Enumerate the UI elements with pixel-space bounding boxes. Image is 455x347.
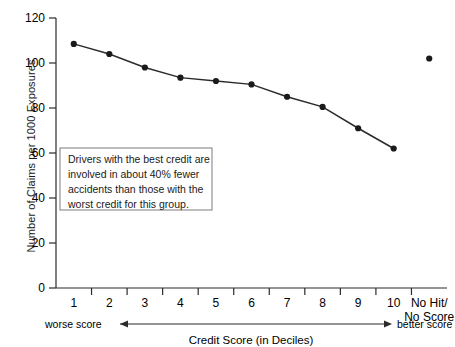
worse-score-label: worse score [44,318,102,330]
better-score-label: better score [397,318,453,330]
x-axis-title: Credit Score (in Deciles) [189,334,314,346]
y-axis-tick-labels: 120 100 80 60 40 20 0 [25,11,45,295]
y-tick-label: 80 [32,101,46,115]
data-point [142,64,148,70]
data-point [284,94,290,100]
x-tick-label: 8 [319,296,326,310]
x-tick-label: 6 [248,296,255,310]
data-point-markers [71,41,433,152]
data-point [71,41,77,47]
data-point [391,145,397,151]
annotation-callout: Drivers with the best credit are involve… [60,148,212,210]
annotation-line: worst credit for this group. [67,198,189,210]
y-tick-label: 0 [38,281,45,295]
annotation-line: accidents than those with the [68,183,204,195]
annotation-line: Drivers with the best credit are [68,153,210,165]
data-point [355,125,361,131]
y-tick-label: 120 [25,11,45,25]
y-axis-ticks [49,18,56,288]
x-tick-label: 10 [387,296,401,310]
y-tick-label: 100 [25,56,45,70]
data-point [248,81,254,87]
data-series-line [74,44,394,149]
chart-plot-area: 120 100 80 60 40 20 0 12345678910No Hit/… [0,0,455,347]
x-tick-label: 1 [70,296,77,310]
x-tick-label: 4 [177,296,184,310]
annotation-line: involved in about 40% fewer [68,168,200,180]
data-point [177,75,183,81]
arrow-head-left [120,321,128,328]
y-tick-label: 60 [32,146,46,160]
y-tick-label: 20 [32,236,46,250]
x-tick-label: 9 [355,296,362,310]
x-tick-label: 7 [284,296,291,310]
data-point-no-hit [426,55,432,61]
x-tick-label-no-hit: No Hit/ [411,296,448,310]
arrow-head-right [384,321,392,328]
data-point [106,51,112,57]
direction-arrow-axis: worse score better score Credit Score (i… [44,318,453,346]
chart-container: Number of Claims per 1000 Exposures 120 … [0,0,455,347]
data-point [213,78,219,84]
data-point [319,104,325,110]
x-tick-label: 2 [106,296,113,310]
x-tick-label: 5 [213,296,220,310]
x-axis-ticks [92,288,412,295]
y-tick-label: 40 [32,191,46,205]
x-tick-label: 3 [142,296,149,310]
